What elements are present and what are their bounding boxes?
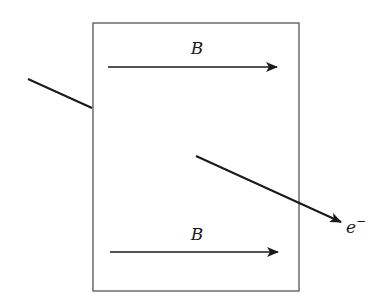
field-label-bottom: B [190,224,204,244]
diagram-canvas: B B e− [0,0,391,297]
electron-symbol: e [346,217,356,237]
electron-charge: − [356,214,366,228]
electron-path-incoming [28,79,92,108]
field-label-top: B [190,38,204,58]
electron-path-outgoing [196,156,341,222]
electron-label: e− [346,214,366,237]
